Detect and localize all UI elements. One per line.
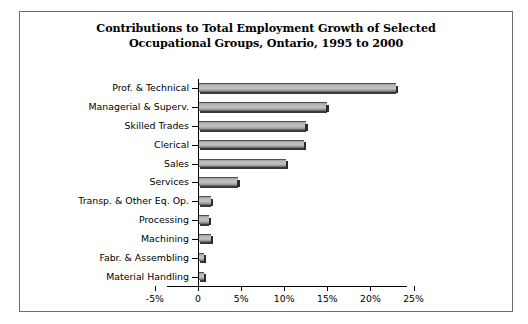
- x-axis-tick-label: 5%: [234, 293, 249, 304]
- bar-row: Clerical: [198, 135, 448, 154]
- bar: [199, 102, 327, 111]
- category-label: Transp. & Other Eq. Op.: [78, 196, 189, 205]
- x-axis-tick-label: 25%: [403, 293, 424, 304]
- category-label: Clerical: [154, 140, 189, 149]
- plot-area: -5%05%10%15%20%25% Prof. & TechnicalMana…: [198, 79, 448, 286]
- y-axis-tick: [192, 164, 198, 165]
- y-axis-tick: [192, 220, 198, 221]
- y-axis-tick: [192, 145, 198, 146]
- x-axis-tick-label: -5%: [146, 293, 164, 304]
- bar: [199, 196, 211, 205]
- x-axis-tick-label: 20%: [360, 293, 381, 304]
- x-axis-tick: [155, 286, 156, 291]
- bar: [199, 140, 304, 149]
- x-axis-tick: [414, 286, 415, 291]
- y-axis-tick: [192, 239, 198, 240]
- y-axis-tick: [192, 182, 198, 183]
- bar: [199, 121, 306, 130]
- category-label: Managerial & Superv.: [88, 102, 189, 111]
- category-label: Prof. & Technical: [112, 83, 189, 92]
- bar-row: Transp. & Other Eq. Op.: [198, 192, 448, 211]
- bar-row: Processing: [198, 211, 448, 230]
- x-axis-tick: [198, 286, 199, 291]
- bar-row: Services: [198, 173, 448, 192]
- x-axis-tick-label: 0: [195, 293, 201, 304]
- bar-row: Material Handling: [198, 267, 448, 286]
- category-label: Processing: [139, 215, 189, 224]
- bar-row: Managerial & Superv.: [198, 98, 448, 117]
- bar: [199, 159, 286, 168]
- x-axis-tick-label: 15%: [317, 293, 338, 304]
- category-label: Sales: [164, 159, 189, 168]
- chart-title-line-1: Contributions to Total Employment Growth…: [20, 21, 512, 36]
- chart-figure: Contributions to Total Employment Growth…: [19, 11, 513, 312]
- x-axis-tick-label: 10%: [274, 293, 295, 304]
- y-axis-tick: [192, 88, 198, 89]
- bar-row: Fabr. & Assembling: [198, 248, 448, 267]
- x-axis-tick: [241, 286, 242, 291]
- category-label: Material Handling: [106, 272, 189, 281]
- bar: [199, 272, 204, 281]
- category-label: Services: [149, 177, 189, 186]
- y-axis-tick: [192, 126, 198, 127]
- bar: [199, 83, 396, 92]
- y-axis-tick: [192, 107, 198, 108]
- category-label: Skilled Trades: [125, 121, 189, 130]
- bar-row: Machining: [198, 230, 448, 249]
- category-label: Fabr. & Assembling: [99, 253, 189, 262]
- y-axis-tick: [192, 277, 198, 278]
- bar: [199, 253, 204, 262]
- bar: [199, 177, 238, 186]
- x-axis-tick: [370, 286, 371, 291]
- x-axis-tick: [327, 286, 328, 291]
- x-axis-tick: [284, 286, 285, 291]
- bar-row: Prof. & Technical: [198, 79, 448, 98]
- chart-title: Contributions to Total Employment Growth…: [20, 21, 512, 51]
- y-axis-tick: [192, 258, 198, 259]
- chart-title-line-2: Occupational Groups, Ontario, 1995 to 20…: [20, 36, 512, 51]
- bar: [199, 215, 209, 224]
- bar-row: Skilled Trades: [198, 117, 448, 136]
- y-axis-tick: [192, 201, 198, 202]
- bar-row: Sales: [198, 154, 448, 173]
- category-label: Machining: [141, 234, 189, 243]
- bar: [199, 234, 211, 243]
